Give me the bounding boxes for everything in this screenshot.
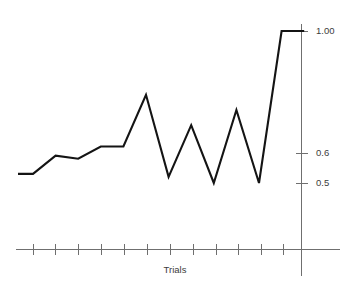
x-axis-label-text: Trials [164, 265, 187, 275]
chart-plot-area [0, 0, 354, 297]
x-axis-label: Trials [0, 265, 354, 275]
y-tick-label-05: 0.5 [316, 178, 329, 188]
data-series-line [18, 31, 304, 183]
line-chart: 1.00 0.6 0.5 Trials [0, 0, 354, 297]
y-tick-label-06: 0.6 [316, 148, 329, 158]
y-tick-label-1: 1.00 [316, 26, 335, 36]
